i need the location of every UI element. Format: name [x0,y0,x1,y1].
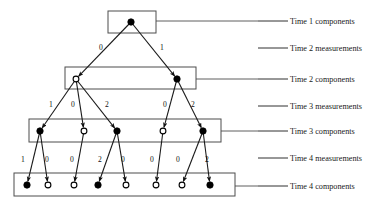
component-boxes [14,11,235,196]
node-t2-n2-filled [174,76,180,82]
e-t2n2-t3n5 [177,79,201,127]
node-t4-n4-filled [95,182,101,188]
node-t4-n2-open [45,182,51,188]
node-t4-n6-open [153,182,159,188]
measurement-label-m4-8: 2 [205,156,209,164]
node-t3-n4-open [160,128,166,134]
time-3-box [29,119,221,142]
trellis-diagram-figure: Time 1 componentsTime 2 measurementsTime… [0,0,373,210]
measurement-label-m3-5: 2 [191,101,195,109]
measurement-label-m4-7: 0 [176,156,180,164]
measurement-label-m3-1: 1 [49,101,53,109]
time-1-components-label: Time 1 components [290,18,355,26]
node-t3-n2-open [81,128,87,134]
e-t1n1-t2n1 [79,22,131,76]
node-t3-n3-filled [114,128,120,134]
e-t3n1-t4n1 [28,131,40,181]
measurement-label-m2-2: 1 [160,44,164,52]
node-t4-n8-filled [207,182,213,188]
time-3-measurements-label: Time 3 measurements [290,103,362,111]
time-4-components-label: Time 4 components [290,183,355,191]
e-t1n1-t2n2 [131,22,174,76]
measurement-label-m4-6: 0 [150,156,154,164]
measurement-label-m4-3: 0 [70,156,74,164]
node-t4-n3-open [71,182,77,188]
e-t3n2-t4n3 [75,131,84,181]
node-t3-n5-filled [200,128,206,134]
e-t3n5-t4n7 [183,131,203,181]
time-2-measurements-label: Time 2 measurements [290,45,362,53]
time-3-components-label: Time 3 components [290,128,355,136]
e-t3n4-t4n6 [157,131,163,181]
node-t4-n1-filled [24,182,30,188]
measurement-label-m3-2: 0 [71,101,75,109]
time-4-measurements-label: Time 4 measurements [290,155,362,163]
measurement-label-m3-3: 2 [105,101,109,109]
node-t4-n7-open [179,182,185,188]
measurement-label-m4-2: 0 [45,156,49,164]
measurement-label-m2-1: 0 [99,44,103,52]
node-t4-n5-open [123,182,129,188]
node-t1-n1-filled [128,19,134,25]
measurement-label-m4-4: 2 [98,156,102,164]
measurement-label-m3-4: 0 [163,101,167,109]
transition-edges [28,22,210,181]
node-t3-n1-filled [37,128,43,134]
time-2-components-label: Time 2 components [290,76,355,84]
node-t2-n1-open [73,76,79,82]
measurement-label-m4-1: 1 [21,156,25,164]
measurement-label-m4-5: 0 [121,156,125,164]
